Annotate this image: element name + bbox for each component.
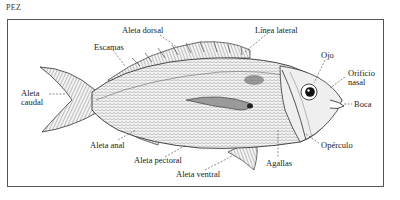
label-ojo: Ojo (321, 51, 334, 60)
label-boca: Boca (354, 100, 371, 109)
label-aleta-anal: Aleta anal (90, 141, 125, 150)
label-aleta-pectoral: Aleta pectoral (134, 156, 182, 165)
caudal-fin (40, 67, 98, 132)
label-orificio-nasal-line2: nasal (348, 78, 375, 87)
label-escamas: Escamas (94, 43, 124, 52)
label-aleta-caudal: Aleta caudal (21, 89, 43, 107)
label-orificio-nasal: Orificio nasal (348, 69, 375, 87)
label-aleta-dorsal: Aleta dorsal (122, 26, 163, 35)
label-aleta-caudal-line2: caudal (21, 98, 43, 107)
label-linea-lateral: Línea lateral (255, 26, 298, 35)
label-aleta-ventral: Aleta ventral (176, 170, 220, 179)
label-agallas: Agallas (266, 159, 292, 168)
fish-eye (301, 84, 317, 100)
label-operculo: Opérculo (321, 141, 353, 150)
